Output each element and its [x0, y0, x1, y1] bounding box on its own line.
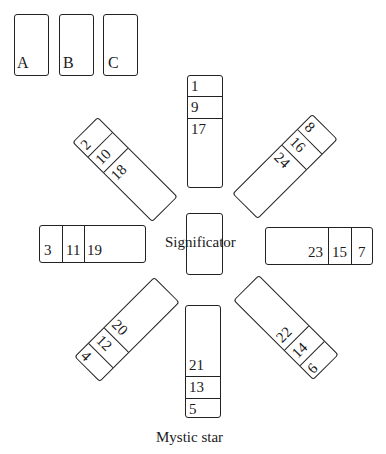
stack-divider [84, 226, 85, 262]
stack-divider [351, 228, 352, 264]
card-label: A [17, 55, 29, 71]
stack-northeast: 8 16 24 [232, 114, 337, 219]
stack-divider [186, 376, 220, 377]
stack-south: 21 13 5 [185, 305, 221, 418]
card-number: 5 [189, 402, 197, 417]
stack-divider [188, 96, 222, 97]
stack-southwest: 20 12 4 [74, 277, 179, 382]
card-number: 3 [44, 243, 52, 258]
card-number: 6 [305, 361, 321, 377]
card-number: 8 [302, 119, 318, 135]
card-number: 19 [87, 243, 102, 258]
card-number: 23 [308, 245, 323, 260]
card-number: 13 [189, 380, 204, 395]
card-label: B [63, 55, 74, 71]
card-label: C [108, 55, 119, 71]
card-number: 7 [358, 245, 366, 260]
card-number: 2 [78, 137, 94, 153]
card-number: 21 [189, 358, 204, 373]
stack-divider [328, 228, 329, 264]
stack-divider [188, 118, 222, 119]
card-number: 1 [191, 79, 199, 94]
stack-east: 23 15 7 [265, 227, 373, 265]
card-number: 15 [332, 245, 347, 260]
significator-label: Significator [165, 234, 236, 251]
stack-northwest: 2 10 18 [72, 117, 177, 222]
reserve-card-c: C [103, 14, 138, 76]
card-number: 9 [191, 100, 199, 115]
stack-southeast: 22 14 6 [233, 275, 338, 380]
stack-divider [186, 398, 220, 399]
stack-divider [62, 226, 63, 262]
diagram-caption: Mystic star [156, 429, 223, 446]
card-number: 4 [78, 348, 94, 364]
reserve-card-a: A [14, 14, 49, 76]
stack-west: 3 11 19 [39, 225, 146, 263]
card-number: 11 [66, 243, 80, 258]
stack-north: 1 9 17 [187, 75, 223, 188]
reserve-card-b: B [59, 14, 94, 76]
card-number: 17 [191, 122, 206, 137]
